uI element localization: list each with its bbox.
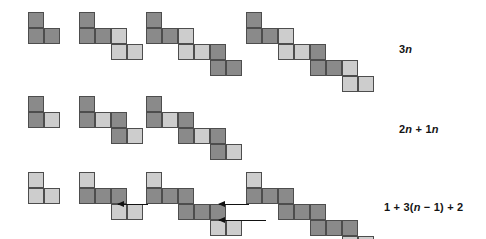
grid-square-dark	[246, 188, 262, 204]
grid-square-light	[278, 28, 294, 44]
grid-square-light	[44, 112, 60, 128]
grid-square-dark	[226, 60, 242, 76]
grid-square-dark	[294, 204, 310, 220]
grid-square-dark	[326, 220, 342, 236]
grid-square-light	[178, 28, 194, 44]
grid-square-light	[146, 172, 162, 188]
grid-square-light	[178, 44, 194, 60]
grid-square-light	[194, 128, 210, 144]
grid-square-dark	[79, 188, 95, 204]
grid-square-light	[28, 188, 44, 204]
grid-square-dark	[178, 188, 194, 204]
grid-square-dark	[310, 204, 326, 220]
expression-label-row-1: 3n	[399, 43, 412, 55]
grid-square-dark	[79, 96, 95, 112]
grid-square-dark	[342, 220, 358, 236]
grid-square-dark	[326, 60, 342, 76]
grid-square-dark	[146, 188, 162, 204]
grid-square-dark	[210, 60, 226, 76]
grid-square-light	[44, 188, 60, 204]
grid-square-dark	[310, 220, 326, 236]
grid-square-light	[79, 172, 95, 188]
grid-square-light	[95, 112, 111, 128]
grid-square-light	[111, 44, 127, 60]
grid-square-dark	[28, 28, 44, 44]
grid-square-dark	[262, 28, 278, 44]
left-arrow-icon	[219, 220, 266, 221]
grid-square-light	[342, 60, 358, 76]
grid-square-dark	[210, 44, 226, 60]
grid-square-light	[111, 28, 127, 44]
grid-square-dark	[146, 96, 162, 112]
left-arrow-icon	[118, 204, 148, 205]
grid-square-light	[246, 172, 262, 188]
grid-square-dark	[178, 128, 194, 144]
expression-label-row-3: 1 + 3(n − 1) + 2	[384, 201, 463, 213]
grid-square-light	[358, 76, 374, 92]
grid-square-light	[358, 236, 374, 239]
grid-square-dark	[178, 204, 194, 220]
grid-square-light	[194, 44, 210, 60]
grid-square-dark	[79, 112, 95, 128]
grid-square-dark	[246, 28, 262, 44]
grid-square-light	[342, 76, 358, 92]
grid-square-dark	[146, 28, 162, 44]
grid-square-light	[294, 44, 310, 60]
grid-square-light	[342, 236, 358, 239]
grid-square-dark	[95, 188, 111, 204]
grid-square-dark	[210, 144, 226, 160]
grid-square-dark	[146, 12, 162, 28]
grid-square-light	[226, 220, 242, 236]
grid-square-dark	[111, 112, 127, 128]
grid-square-light	[28, 172, 44, 188]
grid-square-dark	[262, 188, 278, 204]
grid-square-dark	[79, 28, 95, 44]
grid-square-dark	[95, 28, 111, 44]
left-arrow-icon	[219, 204, 249, 205]
grid-square-dark	[146, 112, 162, 128]
grid-square-light	[162, 112, 178, 128]
grid-square-light	[127, 204, 143, 220]
grid-square-dark	[44, 28, 60, 44]
grid-square-dark	[278, 204, 294, 220]
grid-square-light	[278, 44, 294, 60]
grid-square-light	[127, 44, 143, 60]
grid-square-dark	[310, 60, 326, 76]
pattern-diagram: 3n2n + 1n1 + 3(n − 1) + 2	[0, 0, 486, 239]
grid-square-dark	[246, 12, 262, 28]
grid-square-light	[127, 128, 143, 144]
grid-square-dark	[278, 188, 294, 204]
grid-square-dark	[162, 188, 178, 204]
grid-square-dark	[162, 28, 178, 44]
grid-square-dark	[210, 128, 226, 144]
grid-square-dark	[28, 112, 44, 128]
grid-square-dark	[28, 12, 44, 28]
grid-square-dark	[79, 12, 95, 28]
grid-square-light	[226, 144, 242, 160]
expression-label-row-2: 2n + 1n	[399, 123, 439, 135]
grid-square-dark	[178, 112, 194, 128]
grid-square-dark	[111, 128, 127, 144]
grid-square-dark	[28, 96, 44, 112]
grid-square-dark	[310, 44, 326, 60]
grid-square-dark	[194, 204, 210, 220]
